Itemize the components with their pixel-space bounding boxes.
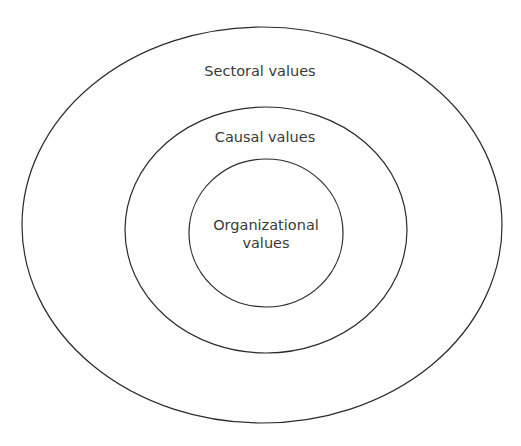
organizational-values-label-line1: Organizational — [213, 217, 319, 233]
nested-values-diagram: Sectoral values Causal values Organizati… — [0, 0, 521, 446]
causal-values-label: Causal values — [215, 129, 315, 145]
inner-circle-organizational — [189, 159, 343, 307]
sectoral-values-label: Sectoral values — [204, 63, 315, 79]
organizational-values-label-line2: values — [242, 235, 289, 251]
